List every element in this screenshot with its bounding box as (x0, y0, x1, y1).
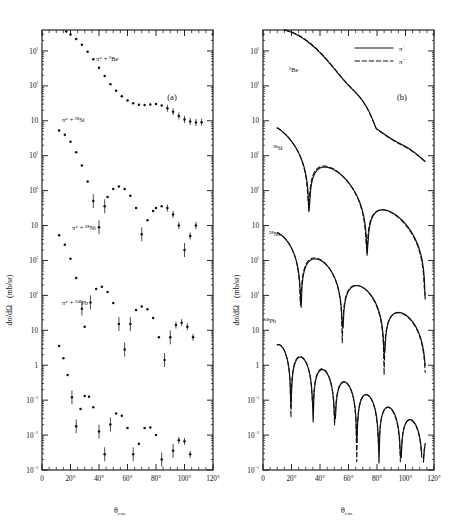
y-axis-title: dσ/dΩ (mb/sr) (5, 274, 14, 325)
x-axis-title-sub-b: c.m. (345, 511, 353, 516)
svg-text:1: 1 (34, 362, 38, 370)
panel-b-svg: 10⁻³10⁻²10⁻¹11010²10³1010²10³1010²10³ 02… (227, 0, 455, 529)
y-axis-title-b: dσ/dΩ (mb/sr) (232, 274, 241, 325)
svg-text:80°: 80° (151, 475, 161, 483)
svg-text:60°: 60° (343, 475, 353, 483)
y-axis-title-units-b: (mb/sr) (232, 274, 241, 298)
svg-text:10²: 10² (250, 81, 259, 90)
svg-text:10³: 10³ (29, 256, 38, 265)
curve-label-si: π⁺ + ²⁸Si (62, 116, 85, 123)
svg-text:10: 10 (252, 222, 260, 230)
svg-text:10²: 10² (250, 186, 259, 195)
svg-text:0: 0 (40, 475, 44, 483)
curve-label-ni: π⁺ + ⁵⁸Ni (72, 224, 96, 231)
panel-a-x-tick-labels: 020°40°60°80°100°120° (40, 475, 220, 483)
curve-label-pb: π⁺ + ²⁰⁸Pb (62, 299, 88, 306)
panel-a-axes (42, 30, 213, 470)
x-axis-title: θc.m. (114, 506, 126, 516)
legend-label-pi-plus: π+ (399, 44, 406, 53)
curve-label-ni-b: ⁵⁸Ni (269, 230, 280, 237)
y-axis-title-units: (mb/sr) (5, 274, 14, 298)
curve-label-be: π⁺ + ⁹Be (96, 55, 119, 62)
y-axis-title-main-b: dσ/dΩ (232, 305, 241, 326)
figure-root: 10⁻³10⁻²10⁻¹11010²10³1010²10³1010²10³ 02… (0, 0, 455, 529)
svg-text:10³: 10³ (250, 47, 259, 56)
svg-text:10⁻²: 10⁻² (26, 431, 38, 440)
panel-b-axes (263, 30, 434, 470)
x-axis-title-sub: c.m. (118, 511, 126, 516)
svg-text:120°: 120° (427, 475, 441, 483)
svg-text:10⁻³: 10⁻³ (247, 466, 259, 475)
svg-text:0: 0 (261, 475, 265, 483)
svg-text:10⁻¹: 10⁻¹ (26, 396, 38, 405)
svg-text:10³: 10³ (250, 151, 259, 160)
svg-text:10²: 10² (29, 186, 38, 195)
svg-text:120°: 120° (206, 475, 220, 483)
panel-a: 10⁻³10⁻²10⁻¹11010²10³1010²10³1010²10³ 02… (0, 0, 228, 529)
svg-text:20°: 20° (286, 475, 296, 483)
svg-text:10²: 10² (29, 81, 38, 90)
svg-text:1: 1 (255, 362, 259, 370)
svg-text:80°: 80° (372, 475, 382, 483)
panel-b-y-tick-labels: 10⁻³10⁻²10⁻¹11010²10³1010²10³1010²10³ (247, 47, 259, 475)
svg-text:10³: 10³ (29, 151, 38, 160)
legend-label-pi-minus: π− (399, 57, 406, 66)
svg-text:10³: 10³ (250, 256, 259, 265)
svg-text:10²: 10² (250, 291, 259, 300)
panel-b-x-tick-labels: 020°40°60°80°100°120° (261, 475, 441, 483)
panel-a-y-tick-labels: 10⁻³10⁻²10⁻¹11010²10³1010²10³1010²10³ (26, 47, 38, 475)
curve-label-be-b: ⁹Be (289, 66, 298, 73)
svg-text:10⁻¹: 10⁻¹ (247, 396, 259, 405)
svg-text:10⁻²: 10⁻² (247, 431, 259, 440)
panel-a-caption: (a) (167, 92, 177, 102)
y-axis-title-main: dσ/dΩ (5, 305, 14, 326)
panel-b: 10⁻³10⁻²10⁻¹11010²10³1010²10³1010²10³ 02… (227, 0, 455, 529)
x-axis-title-b: θc.m. (341, 506, 353, 516)
panel-b-caption: (b) (397, 92, 407, 102)
svg-text:10⁻³: 10⁻³ (26, 466, 38, 475)
svg-text:100°: 100° (178, 475, 192, 483)
legend: π+ π− (355, 44, 406, 66)
svg-text:10³: 10³ (29, 47, 38, 56)
svg-text:40°: 40° (94, 475, 104, 483)
svg-text:10: 10 (31, 117, 39, 125)
svg-text:10: 10 (31, 222, 39, 230)
svg-text:40°: 40° (315, 475, 325, 483)
svg-text:10: 10 (252, 117, 260, 125)
curve-label-si-b: ²⁸Si (273, 144, 283, 151)
curve-label-pb-b: ²⁰⁸Pb (263, 317, 276, 324)
svg-text:10: 10 (252, 327, 260, 335)
svg-text:20°: 20° (65, 475, 75, 483)
svg-text:60°: 60° (122, 475, 132, 483)
svg-text:100°: 100° (399, 475, 413, 483)
panel-a-data-points (58, 30, 203, 466)
svg-text:10: 10 (31, 327, 39, 335)
svg-text:10²: 10² (29, 291, 38, 300)
panel-a-svg: 10⁻³10⁻²10⁻¹11010²10³1010²10³1010²10³ 02… (0, 0, 228, 529)
